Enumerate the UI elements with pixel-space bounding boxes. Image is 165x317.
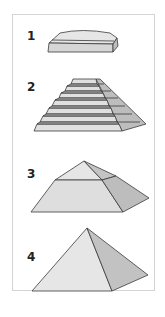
bent-pyramid-shape (31, 161, 149, 212)
step-pyramid-shape (34, 79, 146, 131)
true-pyramid-shape (32, 228, 148, 291)
mastaba-slab-shape (48, 31, 118, 53)
pyramid-evolution-diagram (0, 0, 165, 317)
